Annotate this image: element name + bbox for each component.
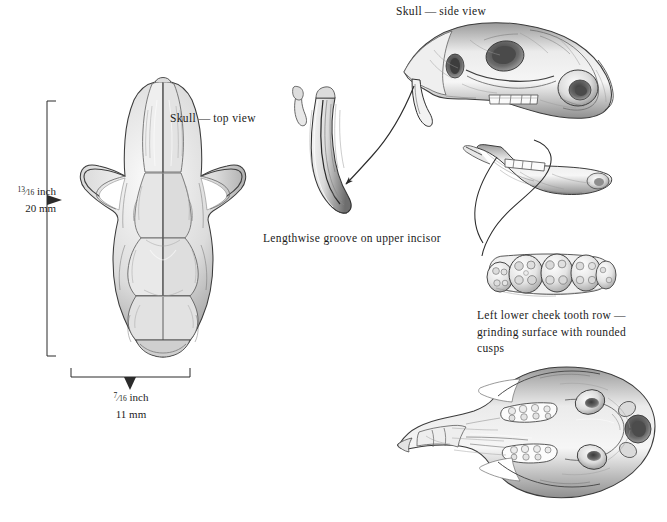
skull-length-bracket bbox=[47, 101, 62, 356]
width-metric-value: 11 mm bbox=[97, 406, 165, 423]
label-skull-side-view: Skull — side view bbox=[396, 3, 486, 20]
upper-incisor-detail-drawing bbox=[293, 86, 351, 213]
label-cheek-tooth-row-line1: Left lower cheek tooth row — bbox=[477, 307, 652, 324]
tooth-2 bbox=[509, 255, 543, 293]
length-metric-value: 20 mm bbox=[8, 200, 56, 217]
length-inch-denominator: 16 bbox=[27, 188, 35, 197]
label-cheek-tooth-row-line2: grinding surface with rounded cusps bbox=[477, 324, 652, 357]
label-skull-top-view: Skull — top view bbox=[170, 110, 256, 127]
illustration-plate: Skull — top view Skull — side view Lengt… bbox=[0, 0, 667, 522]
tooth-5 bbox=[596, 261, 616, 289]
curved-arrow-skull-to-incisor bbox=[346, 86, 414, 184]
skull-side-view-drawing bbox=[404, 23, 613, 127]
width-inch-unit: inch bbox=[129, 391, 148, 403]
skull-length-measurement: 13⁄16 inch 20 mm bbox=[8, 183, 56, 217]
skull-width-measurement: 7⁄16 inch 11 mm bbox=[97, 389, 165, 423]
width-inch-denominator: 16 bbox=[119, 394, 127, 403]
tooth-3 bbox=[541, 254, 573, 292]
curved-leader-jaw-to-tooth-row bbox=[482, 140, 551, 256]
length-inch-numerator: 13 bbox=[17, 185, 25, 194]
artwork-layer bbox=[0, 0, 667, 522]
length-inch-value: 13⁄16 inch bbox=[8, 183, 56, 200]
skull-bottom-view-drawing bbox=[398, 367, 655, 498]
width-inch-value: 7⁄16 inch bbox=[97, 389, 165, 406]
cheek-tooth-row-drawing bbox=[487, 254, 616, 296]
length-inch-unit: inch bbox=[37, 185, 56, 197]
label-cheek-tooth-row-detail: Left lower cheek tooth row — grinding su… bbox=[477, 307, 652, 357]
upper-cheek-teeth-side bbox=[489, 95, 538, 104]
skull-illustrations-svg bbox=[0, 0, 667, 522]
lower-jaw-drawing bbox=[463, 145, 611, 195]
skull-width-bracket bbox=[71, 368, 190, 390]
label-upper-incisor-detail: Lengthwise groove on upper incisor bbox=[263, 230, 441, 247]
